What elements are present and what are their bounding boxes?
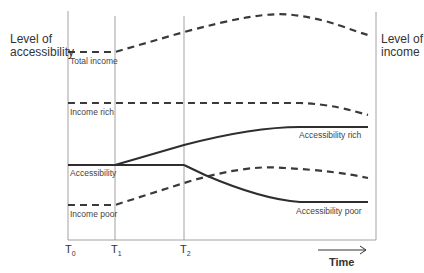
total-income-line (68, 14, 368, 52)
income-poor-label: Income poor (70, 209, 117, 219)
accessibility-poor-label: Accessibility poor (296, 206, 362, 216)
tick-t2: T2 (180, 243, 191, 257)
left-axis-title: Level of accessibility (10, 33, 74, 59)
accessibility-label: Accessibility (70, 168, 116, 178)
right-axis-title: Level of income (381, 33, 423, 59)
accessibility-rich-label: Accessibility rich (299, 130, 361, 140)
tick-t0: T0 (65, 243, 76, 257)
total-income-label: Total income (70, 56, 118, 66)
time-arrow (318, 246, 366, 254)
time-axis-label: Time (329, 256, 354, 268)
income-rich-label: Income rich (70, 107, 114, 117)
accessibility-poor-line (184, 165, 368, 202)
tick-t1: T1 (111, 243, 122, 257)
